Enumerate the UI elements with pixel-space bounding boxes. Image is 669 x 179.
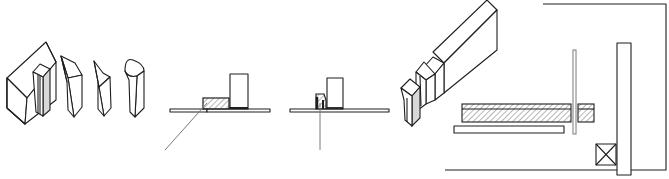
hatched-strip-short [578,104,594,122]
cut-piece-2 [94,61,111,116]
crossed-box [596,144,616,165]
cut-piece-3 [125,59,144,117]
isometric-blocks-panel [7,42,144,124]
upright-block [230,74,248,109]
hatched-strip [462,104,571,122]
tall-bar [617,43,631,175]
section-a-panel [165,74,270,150]
upright-block [327,78,343,109]
shaded-post [33,64,50,116]
thin-rod [573,50,576,134]
plain-strip [454,126,564,133]
section-b-panel [290,78,389,150]
cut-piece-1 [61,56,82,117]
technical-diagram [0,0,669,179]
